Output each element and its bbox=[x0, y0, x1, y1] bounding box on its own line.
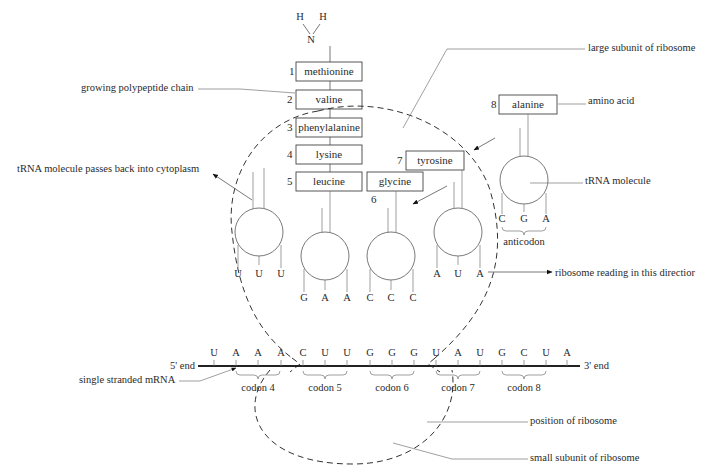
translation-diagram: H H N 1 methionine 2 valine 3 phenylalan… bbox=[0, 0, 715, 474]
codon-brace bbox=[303, 371, 347, 379]
label-trna-exits: tRNA molecule passes back into cytoplasm bbox=[17, 163, 199, 174]
label-reading-direction: ribosome reading in this directior bbox=[555, 267, 695, 278]
hydrogen-2: H bbox=[319, 11, 327, 22]
codon-label: codon 5 bbox=[308, 382, 342, 393]
anticodon-base: A bbox=[321, 292, 329, 303]
mrna-base: G bbox=[366, 347, 374, 358]
amino-acid-label: glycine bbox=[379, 175, 411, 187]
label-large-subunit: large subunit of ribosome bbox=[588, 42, 696, 53]
amino-acid-label: leucine bbox=[313, 175, 345, 187]
anticodon-base: A bbox=[433, 268, 441, 279]
mrna-base: G bbox=[410, 347, 418, 358]
amine-group: H H N bbox=[296, 11, 330, 59]
mrna-base: A bbox=[454, 347, 462, 358]
position-number: 1 bbox=[289, 65, 295, 77]
amino-acid-label: methionine bbox=[304, 65, 354, 77]
anticodon-brace bbox=[502, 227, 546, 235]
mrna-base: G bbox=[388, 347, 396, 358]
label-small-subunit: small subunit of ribosome bbox=[530, 452, 640, 463]
anticodon-label: anticodon bbox=[503, 236, 545, 247]
amino-acid-glycine: glycine 6 bbox=[367, 172, 423, 205]
amino-acid-tyrosine: 7 tyrosine bbox=[397, 151, 464, 170]
trna-exiting: U U U bbox=[234, 168, 285, 279]
codon-brace bbox=[370, 371, 414, 379]
mrna-base: U bbox=[542, 347, 550, 358]
codon-label: codon 6 bbox=[375, 382, 409, 393]
anticodon-base: U bbox=[454, 268, 462, 279]
anticodon-base: C bbox=[387, 292, 394, 303]
mrna-base: A bbox=[232, 347, 240, 358]
anticodon-base: G bbox=[300, 292, 308, 303]
label-amino-acid: amino acid bbox=[588, 95, 635, 106]
anticodon-base: A bbox=[542, 213, 550, 224]
position-number: 4 bbox=[287, 148, 293, 160]
trna-leucine: G A A bbox=[300, 191, 351, 303]
position-number: 8 bbox=[491, 98, 497, 110]
amino-acid-label: valine bbox=[316, 93, 343, 105]
mrna-strand: 5' end 3' end U A A A C U U G G G U A U … bbox=[170, 347, 610, 393]
label-trna-molecule: tRNA molecule bbox=[585, 175, 651, 186]
trna-glycine: C C C bbox=[366, 191, 416, 303]
codon-brace bbox=[436, 371, 480, 379]
anticodon-base: C bbox=[409, 292, 416, 303]
mrna-base: A bbox=[277, 347, 285, 358]
anticodon-base: C bbox=[366, 292, 373, 303]
amino-acid-label: alanine bbox=[512, 98, 544, 110]
label-single-mrna: single stranded mRNA bbox=[79, 374, 176, 385]
three-prime-label: 3' end bbox=[584, 360, 610, 371]
mrna-base: U bbox=[210, 347, 218, 358]
anticodon-base: C bbox=[498, 213, 505, 224]
position-number: 7 bbox=[397, 154, 403, 166]
hydrogen-1: H bbox=[296, 11, 304, 22]
codon-braces: codon 4 codon 5 codon 6 codon 7 codon 8 bbox=[236, 371, 546, 393]
mrna-bases: U A A A C U U G G G U A U G C U A bbox=[210, 347, 571, 366]
mrna-base: A bbox=[563, 347, 571, 358]
mrna-base: U bbox=[321, 347, 329, 358]
polypeptide-chain: 1 methionine 2 valine 3 phenylalanine 4 … bbox=[287, 59, 362, 191]
mrna-base: C bbox=[520, 347, 527, 358]
mrna-base: U bbox=[343, 347, 351, 358]
five-prime-label: 5' end bbox=[170, 360, 196, 371]
amino-acid-alanine: 8 alanine bbox=[491, 95, 557, 114]
mrna-base: A bbox=[254, 347, 262, 358]
anticodon-base: U bbox=[277, 268, 285, 279]
trna-tyrosine: A U A bbox=[433, 170, 484, 279]
codon-label: codon 7 bbox=[441, 382, 475, 393]
codon-brace bbox=[502, 371, 546, 379]
anticodon-base: G bbox=[520, 213, 528, 224]
anticodon-base: A bbox=[476, 268, 484, 279]
trna-alanine: C G A anticodon bbox=[498, 114, 550, 247]
label-growing-polypeptide-chain: growing polypeptide chain bbox=[81, 82, 194, 93]
position-number: 3 bbox=[287, 121, 293, 133]
mrna-base: U bbox=[432, 347, 440, 358]
codon-label: codon 4 bbox=[241, 382, 275, 393]
position-number: 5 bbox=[287, 175, 293, 187]
mrna-base: U bbox=[476, 347, 484, 358]
amino-acid-label: tyrosine bbox=[417, 154, 453, 166]
mrna-base: G bbox=[498, 347, 506, 358]
mrna-base: C bbox=[299, 347, 306, 358]
position-number: 6 bbox=[371, 193, 377, 205]
amino-acid-label: lysine bbox=[316, 148, 342, 160]
label-position-of-ribosome: position of ribosome bbox=[530, 415, 617, 426]
amino-acid-label: phenylalanine bbox=[298, 121, 360, 133]
anticodon-base: U bbox=[255, 268, 263, 279]
nitrogen: N bbox=[307, 34, 315, 45]
codon-label: codon 8 bbox=[507, 382, 541, 393]
codon-brace bbox=[236, 371, 280, 379]
small-subunit-outline bbox=[255, 370, 453, 464]
position-number: 2 bbox=[287, 93, 293, 105]
anticodon-base: A bbox=[343, 292, 351, 303]
